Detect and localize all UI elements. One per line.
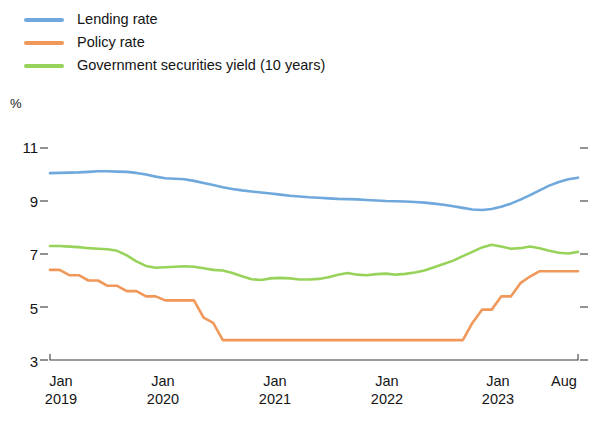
legend-label-government-securities-yield: Government securities yield (10 years) xyxy=(77,58,325,73)
legend-swatch-policy-rate xyxy=(24,41,64,45)
interest-rates-chart: Lending rate Policy rate Government secu… xyxy=(0,0,597,423)
chart-legend: Lending rate Policy rate Government secu… xyxy=(24,8,584,77)
legend-item-lending-rate: Lending rate xyxy=(24,8,584,31)
legend-swatch-government-securities-yield xyxy=(24,64,64,68)
legend-swatch-lending-rate xyxy=(24,18,64,22)
series-line-lending-rate xyxy=(50,171,578,210)
series-line-government-securities-yield-10-years xyxy=(50,245,578,280)
x-axis-line xyxy=(50,354,578,360)
plot-area: % 11 9 7 5 3 Jan 2019 Jan 2020 Jan 2021 … xyxy=(0,92,597,423)
chart-canvas xyxy=(0,92,597,423)
series-group xyxy=(50,171,578,340)
legend-item-policy-rate: Policy rate xyxy=(24,31,584,54)
legend-label-policy-rate: Policy rate xyxy=(77,35,145,50)
legend-label-lending-rate: Lending rate xyxy=(77,12,158,27)
legend-item-government-securities-yield: Government securities yield (10 years) xyxy=(24,54,584,77)
